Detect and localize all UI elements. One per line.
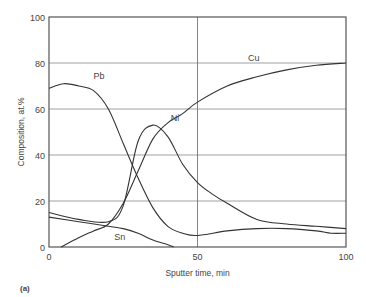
x-tick-label: 100: [338, 252, 353, 262]
y-tick-label: 80: [35, 59, 45, 69]
series-label-pb: Pb: [94, 71, 105, 81]
series-label-sn: Sn: [114, 232, 125, 242]
y-tick-label: 100: [30, 13, 45, 23]
x-axis-label: Sputter time, min: [165, 268, 230, 278]
figure-label: (a): [20, 284, 30, 293]
line-chart: 020406080100050100Sputter time, minCompo…: [0, 0, 366, 297]
y-tick-label: 60: [35, 105, 45, 115]
x-tick-label: 50: [192, 252, 202, 262]
x-tick-label: 0: [46, 252, 51, 262]
y-tick-label: 0: [40, 243, 45, 253]
y-tick-label: 40: [35, 151, 45, 161]
y-axis-label: Composition, at.%: [16, 97, 26, 166]
series-label-cu: Cu: [248, 53, 260, 63]
y-tick-label: 20: [35, 197, 45, 207]
chart-figure: 020406080100050100Sputter time, minCompo…: [0, 0, 366, 297]
